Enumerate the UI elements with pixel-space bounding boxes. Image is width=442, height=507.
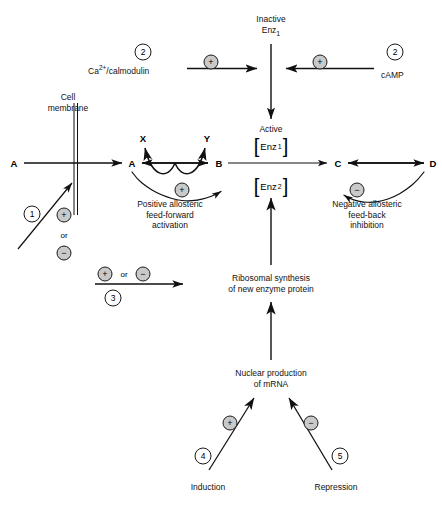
ribosomal-synthesis-label: Ribosomal synthesis of new enzyme protei… (228, 273, 314, 294)
positive-allosteric-line1: Positive allosteric (137, 199, 203, 209)
node-a-inside-text: A (129, 158, 136, 169)
minus-badge-membrane-sign: − (61, 249, 66, 258)
step-number-3-text: 3 (111, 294, 116, 303)
cell-membrane-line (74, 103, 78, 215)
calmodulin-suffix: /calmodulin (106, 66, 149, 76)
minus-badge-feed-back: − (350, 183, 365, 198)
enzyme1-subscript: 1 (278, 143, 282, 150)
minus-badge-membrane: − (57, 246, 72, 261)
step-number-4: 4 (195, 448, 212, 465)
plus-badge-induction: + (223, 416, 238, 431)
arc-cofactor-x (145, 148, 175, 174)
induction-label: Induction (191, 482, 226, 493)
step-number-4-text: 4 (201, 452, 206, 461)
inactive-enzyme-line2: Enz (262, 25, 277, 35)
camp-label: cAMP (381, 70, 404, 81)
minus-badge-transcription-sign: − (140, 270, 145, 279)
calmodulin-text: Ca (88, 66, 99, 76)
bracket-close-enz1: ] (283, 140, 289, 152)
active-enzyme-text: Active (259, 124, 282, 134)
plus-badge-feed-forward-sign: + (179, 186, 184, 195)
node-c-text: C (335, 158, 342, 169)
plus-badge-transcription: + (98, 267, 113, 282)
minus-badge-transcription: − (136, 267, 151, 282)
repression-text: Repression (315, 482, 358, 492)
active-enzyme-label: Active (259, 124, 282, 135)
step-number-3: 3 (105, 290, 122, 307)
enzyme2-subscript: 2 (278, 183, 282, 190)
step-number-2-camp: 2 (387, 44, 404, 61)
ribosomal-line2: of new enzyme protein (228, 284, 314, 294)
or-label-transcription-text: or (120, 270, 127, 279)
minus-badge-repression: − (304, 416, 319, 431)
cell-membrane-label: Cell membrane (48, 92, 89, 113)
step-number-5-text: 5 (338, 452, 343, 461)
plus-badge-membrane: + (57, 208, 72, 223)
enzyme1-bracket: [ Enz1 ] (254, 140, 288, 152)
enzyme1-text: Enz (260, 141, 276, 152)
node-d: D (430, 158, 437, 169)
pathway-diagram: Inactive Enz1 Ca2+/calmodulin 2 + cAMP 2… (0, 0, 442, 507)
arrow-induction (209, 398, 254, 470)
cofactor-y-text: Y (204, 133, 210, 144)
step-number-2-calmodulin: 2 (135, 44, 152, 61)
step-number-1: 1 (24, 206, 41, 223)
node-c: C (335, 158, 342, 169)
negative-allosteric-line3: inhibition (350, 220, 384, 230)
plus-badge-camp: + (313, 55, 328, 70)
or-label-membrane: or (60, 231, 67, 240)
calmodulin-label: Ca2+/calmodulin (88, 63, 149, 76)
inactive-enzyme-subscript: 1 (276, 29, 280, 36)
negative-allosteric-caption: Negative allosteric feed-back inhibition (332, 199, 401, 231)
camp-text: cAMP (381, 70, 404, 80)
plus-badge-transcription-sign: + (102, 270, 107, 279)
node-a-outside-text: A (11, 158, 18, 169)
cofactor-y-label: Y (204, 133, 210, 144)
plus-badge-camp-sign: + (317, 58, 322, 67)
positive-allosteric-caption: Positive allosteric feed-forward activat… (137, 199, 203, 231)
repression-label: Repression (315, 482, 358, 493)
inactive-enzyme-line1: Inactive (256, 14, 285, 24)
nuclear-production-label: Nuclear production of mRNA (235, 368, 306, 389)
plus-badge-calmodulin-sign: + (208, 58, 213, 67)
minus-badge-feed-back-sign: − (354, 186, 359, 195)
cell-membrane-line1: Cell (61, 92, 76, 102)
plus-badge-feed-forward: + (175, 183, 190, 198)
plus-badge-induction-sign: + (227, 419, 232, 428)
negative-allosteric-line2: feed-back (348, 210, 385, 220)
step-number-2-camp-text: 2 (393, 48, 398, 57)
bracket-close-enz2: ] (283, 180, 289, 192)
nuclear-line1: Nuclear production (235, 368, 306, 378)
cell-membrane-line2: membrane (48, 103, 89, 113)
node-b-text: B (216, 158, 223, 169)
inactive-enzyme-label: Inactive Enz1 (256, 14, 285, 39)
node-d-text: D (430, 158, 437, 169)
cofactor-x-text: X (140, 133, 146, 144)
arrow-repression (289, 398, 332, 470)
plus-badge-calmodulin: + (204, 55, 219, 70)
plus-badge-membrane-sign: + (61, 211, 66, 220)
minus-badge-repression-sign: − (308, 419, 313, 428)
nuclear-line2: of mRNA (254, 379, 288, 389)
enzyme2-bracket: [ Enz2 ] (254, 180, 288, 192)
enzyme2-text: Enz (260, 181, 276, 192)
step-number-1-text: 1 (30, 210, 35, 219)
bracket-open-enz1: [ (254, 140, 260, 152)
negative-allosteric-line1: Negative allosteric (332, 199, 401, 209)
node-b: B (216, 158, 223, 169)
node-a-inside: A (129, 158, 136, 169)
induction-text: Induction (191, 482, 226, 492)
positive-allosteric-line3: activation (152, 220, 188, 230)
arc-cofactor-y (175, 148, 205, 174)
ribosomal-line1: Ribosomal synthesis (232, 273, 310, 283)
node-a-outside: A (11, 158, 18, 169)
or-label-transcription: or (120, 270, 127, 279)
or-label-membrane-text: or (60, 231, 67, 240)
positive-allosteric-line2: feed-forward (146, 210, 194, 220)
cofactor-x-label: X (140, 133, 146, 144)
bracket-open-enz2: [ (254, 180, 260, 192)
step-number-2-calmodulin-text: 2 (141, 48, 146, 57)
step-number-5: 5 (332, 448, 349, 465)
